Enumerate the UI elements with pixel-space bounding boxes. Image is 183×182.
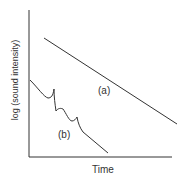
curve-a-label: (a): [98, 85, 110, 96]
curve-b: [30, 80, 108, 153]
x-axis-label: Time: [92, 164, 114, 175]
y-axis-label: log (sound intensity): [10, 40, 20, 121]
curve-b-label: (b): [58, 129, 70, 140]
decay-diagram: (a) (b) Time log (sound intensity): [0, 0, 183, 182]
